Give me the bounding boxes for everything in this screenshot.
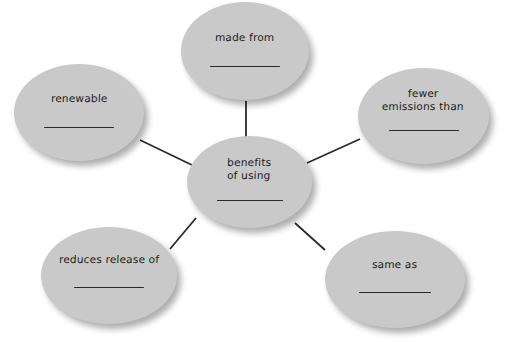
concept-map-canvas: made from renewable fewer emissions than… [0, 0, 505, 342]
answer-blank-line[interactable] [74, 287, 144, 288]
connector-benefits-reduces [170, 218, 196, 249]
concept-node-label: made from [215, 31, 275, 44]
connector-benefits-fewer-emissions [307, 139, 360, 163]
concept-node-label: benefits of using [227, 156, 272, 182]
concept-node-renewable[interactable]: renewable [14, 64, 144, 161]
concept-node-label: fewer emissions than [382, 87, 465, 113]
answer-blank-line[interactable] [217, 200, 283, 201]
connector-benefits-same-as [295, 223, 325, 250]
concept-node-made-from[interactable]: made from [181, 2, 309, 100]
concept-node-fewer-emissions[interactable]: fewer emissions than [358, 68, 489, 164]
concept-node-label: renewable [51, 92, 108, 105]
concept-node-reduces-release-of[interactable]: reduces release of [41, 227, 177, 324]
connector-benefits-renewable [140, 140, 194, 166]
answer-blank-line[interactable] [44, 127, 114, 128]
concept-node-label: reduces release of [59, 253, 160, 266]
concept-node-same-as[interactable]: same as [325, 231, 465, 328]
answer-blank-line[interactable] [210, 66, 280, 67]
answer-blank-line[interactable] [359, 292, 431, 293]
answer-blank-line[interactable] [389, 130, 459, 131]
concept-node-label: same as [372, 258, 418, 271]
concept-node-center-benefits[interactable]: benefits of using [187, 136, 312, 228]
